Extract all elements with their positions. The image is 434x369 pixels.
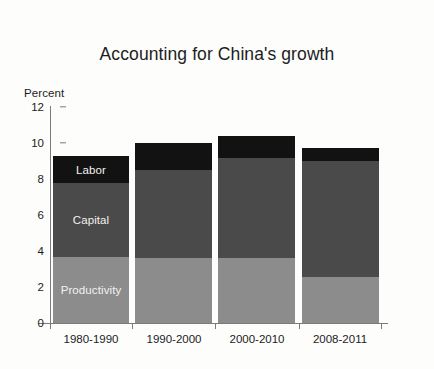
x-tick-mark-1 xyxy=(132,323,133,329)
x-tick-mark-2 xyxy=(215,323,216,329)
y-tick-label-10: 10 xyxy=(22,137,44,149)
segment-productivity-2008-2011 xyxy=(302,277,379,323)
segment-labor-1980-1990: Labor xyxy=(53,156,129,183)
bar-2008-2011[interactable] xyxy=(302,148,379,323)
segment-label-productivity: Productivity xyxy=(61,284,122,296)
segment-capital-1990-2000 xyxy=(135,170,212,258)
x-tick-mark-3 xyxy=(299,323,300,329)
plot-area: Labor Capital Productivity xyxy=(51,107,381,323)
segment-productivity-2000-2010 xyxy=(218,258,295,323)
segment-productivity-1980-1990: Productivity xyxy=(53,257,129,323)
segment-capital-1980-1990: Capital xyxy=(53,183,129,257)
y-tick-label-4: 4 xyxy=(22,245,44,257)
segment-labor-1990-2000 xyxy=(135,143,212,170)
x-tick-mark-0 xyxy=(50,323,51,329)
x-tick-label-2000-2010: 2000-2010 xyxy=(230,333,285,345)
x-tick-label-1980-1990: 1980-1990 xyxy=(64,333,119,345)
segment-labor-2000-2010 xyxy=(218,136,295,158)
x-axis-line xyxy=(38,323,388,324)
y-axis-label: Percent xyxy=(24,87,64,99)
y-tick-label-12: 12 xyxy=(22,101,44,113)
x-tick-mark-4 xyxy=(381,323,382,329)
segment-label-capital: Capital xyxy=(73,214,110,226)
bar-1980-1990[interactable]: Labor Capital Productivity xyxy=(53,156,129,323)
chart-figure: Accounting for China's growth Percent 0 … xyxy=(0,0,434,369)
segment-productivity-1990-2000 xyxy=(135,258,212,323)
chart-title: Accounting for China's growth xyxy=(0,44,434,65)
y-tick-label-0: 0 xyxy=(22,317,44,329)
segment-label-labor: Labor xyxy=(76,164,106,176)
y-tick-label-8: 8 xyxy=(22,173,44,185)
segment-labor-2008-2011 xyxy=(302,148,379,161)
y-tick-label-6: 6 xyxy=(22,209,44,221)
bar-2000-2010[interactable] xyxy=(218,136,295,323)
bar-1990-2000[interactable] xyxy=(135,143,212,323)
x-tick-label-1990-2000: 1990-2000 xyxy=(147,333,202,345)
y-tick-label-2: 2 xyxy=(22,281,44,293)
segment-capital-2008-2011 xyxy=(302,161,379,277)
segment-capital-2000-2010 xyxy=(218,158,295,258)
x-tick-label-2008-2011: 2008-2011 xyxy=(313,333,367,345)
